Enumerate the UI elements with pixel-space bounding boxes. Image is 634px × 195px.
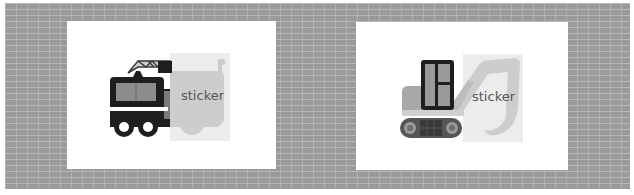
- sticker-label: sticker: [472, 89, 515, 104]
- card-fire-truck: sticker: [67, 21, 276, 169]
- sticker-label: sticker: [181, 88, 224, 103]
- card-excavator: sticker: [356, 22, 568, 170]
